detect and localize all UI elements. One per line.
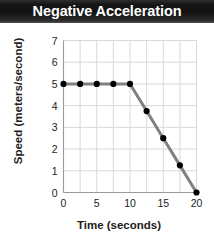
plot-svg: 05101520 01234567 <box>0 23 214 243</box>
data-point-marker <box>160 135 166 141</box>
y-tick-label: 1 <box>52 165 58 177</box>
data-point-marker <box>110 81 116 87</box>
x-tick-label: 5 <box>94 197 100 209</box>
chart-title: Negative Acceleration <box>0 0 214 23</box>
y-tick-label: 7 <box>52 35 58 47</box>
data-point-marker <box>144 108 150 114</box>
x-tick-label: 15 <box>157 197 169 209</box>
y-tick-label: 4 <box>52 100 58 112</box>
data-point-marker <box>177 162 183 168</box>
data-point-marker <box>60 81 66 87</box>
y-tick-label: 2 <box>52 143 58 155</box>
y-tick-label: 3 <box>52 121 58 133</box>
data-point-marker <box>193 189 199 195</box>
data-point-marker <box>94 81 100 87</box>
chart-title-bar: Negative Acceleration <box>0 0 214 23</box>
x-tick-label: 0 <box>61 197 67 209</box>
y-tick-label: 6 <box>52 56 58 68</box>
x-tick-label: 20 <box>191 197 203 209</box>
grid-minor-vertical <box>64 41 197 193</box>
x-tick-label: 10 <box>124 197 136 209</box>
data-point-marker <box>127 81 133 87</box>
plot-area: 05101520 01234567 <box>0 23 214 243</box>
chart-figure: Negative Acceleration Speed (meters/seco… <box>0 0 214 243</box>
y-tick-labels: 01234567 <box>52 35 58 199</box>
y-tick-label: 0 <box>52 187 58 199</box>
chart-body: Speed (meters/second) Time (seconds) 051… <box>0 23 214 243</box>
data-point-marker <box>77 81 83 87</box>
y-tick-label: 5 <box>52 78 58 90</box>
x-tick-labels: 05101520 <box>61 197 203 209</box>
